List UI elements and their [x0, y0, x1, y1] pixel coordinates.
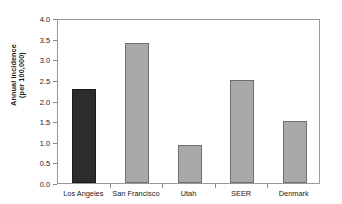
- y-axis-tick-label: 4.0: [28, 15, 50, 24]
- x-axis-tick-mark: [162, 184, 163, 188]
- x-axis-label-seer: SEER: [231, 189, 251, 198]
- bar-denmark: [283, 121, 307, 183]
- y-axis-tick-label: 3.0: [28, 56, 50, 65]
- bar-san-francisco: [125, 43, 149, 183]
- x-axis-tick-mark: [110, 184, 111, 188]
- y-axis-tick-label: 3.5: [28, 35, 50, 44]
- y-axis-tick-labels: 0.00.51.01.52.02.53.03.54.0: [27, 0, 50, 204]
- y-axis-tick-label: 2.5: [28, 76, 50, 85]
- y-axis-title-line-2: (per 100,000): [18, 52, 26, 98]
- x-axis-tick-mark: [267, 184, 268, 188]
- x-axis-label-los-angeles: Los Angeles: [63, 189, 103, 198]
- x-axis-category-labels: Los AngelesSan FranciscoUtahSEERDenmark: [57, 189, 320, 203]
- bar-utah: [178, 145, 202, 183]
- y-axis-tick-label: 0.5: [28, 159, 50, 168]
- y-axis-tick-label: 1.0: [28, 138, 50, 147]
- plot-area: [57, 19, 320, 184]
- x-axis-label-denmark: Denmark: [279, 189, 309, 198]
- x-axis-label-san-francisco: San Francisco: [112, 189, 159, 198]
- y-axis-tick-label: 1.5: [28, 118, 50, 127]
- bar-seer: [230, 80, 254, 183]
- y-axis-tick-label: 0.0: [28, 180, 50, 189]
- bar-chart-figure: Annual incidence (per 100,000) 0.00.51.0…: [0, 0, 342, 204]
- bars-layer: [58, 20, 319, 183]
- x-axis-tick-mark: [215, 184, 216, 188]
- y-axis-tick-label: 2.0: [28, 97, 50, 106]
- bar-los-angeles: [72, 89, 96, 183]
- x-axis-label-utah: Utah: [181, 189, 197, 198]
